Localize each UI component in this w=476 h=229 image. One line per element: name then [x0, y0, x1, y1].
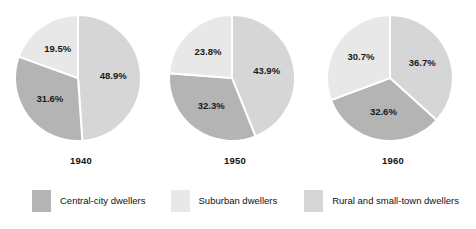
slice-value-label: 48.9% — [100, 70, 127, 81]
pie-svg: 48.9%31.6%19.5% — [6, 8, 156, 150]
legend-color-swatch — [32, 190, 51, 212]
pie-charts-row: 48.9%31.6%19.5%194043.9%32.3%23.8%195036… — [0, 0, 476, 178]
legend-item: Central-city dwellers — [32, 186, 146, 216]
pie-chart-1960: 36.7%32.6%30.7%1960 — [318, 0, 468, 178]
legend-label: Rural and small-town dwellers — [332, 196, 459, 206]
slice-value-label: 43.9% — [253, 65, 280, 76]
chart-legend: Central-city dwellersSuburban dwellersRu… — [0, 186, 476, 216]
slice-value-label: 23.8% — [195, 46, 222, 57]
pie-year-label: 1940 — [6, 155, 156, 166]
legend-color-swatch — [304, 190, 323, 212]
slice-value-label: 32.6% — [370, 106, 397, 117]
slice-value-label: 31.6% — [36, 93, 63, 104]
pie-chart-1950: 43.9%32.3%23.8%1950 — [160, 0, 310, 178]
legend-color-swatch — [171, 190, 190, 212]
pie-graphic: 36.7%32.6%30.7% — [318, 8, 468, 150]
pie-chart-1940: 48.9%31.6%19.5%1940 — [6, 0, 156, 178]
legend-label: Suburban dwellers — [199, 196, 278, 206]
pie-svg: 43.9%32.3%23.8% — [160, 8, 310, 150]
slice-value-label: 32.3% — [198, 100, 225, 111]
pie-year-label: 1960 — [318, 155, 468, 166]
legend-item: Rural and small-town dwellers — [304, 186, 459, 216]
slice-value-label: 36.7% — [409, 57, 436, 68]
legend-label: Central-city dwellers — [60, 196, 146, 206]
slice-value-label: 19.5% — [44, 43, 71, 54]
pie-year-label: 1950 — [160, 155, 310, 166]
legend-item: Suburban dwellers — [171, 186, 278, 216]
slice-value-label: 30.7% — [348, 51, 375, 62]
pie-graphic: 43.9%32.3%23.8% — [160, 8, 310, 150]
pie-graphic: 48.9%31.6%19.5% — [6, 8, 156, 150]
pie-svg: 36.7%32.6%30.7% — [318, 8, 468, 150]
pie-chart-figure: 48.9%31.6%19.5%194043.9%32.3%23.8%195036… — [0, 0, 476, 229]
